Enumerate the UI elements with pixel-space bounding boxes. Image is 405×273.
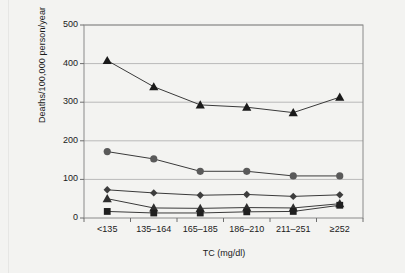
datapoint-4-5	[336, 202, 343, 209]
datapoint-1-2	[197, 168, 204, 175]
datapoint-1-0	[104, 148, 111, 155]
datapoint-1-4	[290, 172, 297, 179]
datapoint-1-3	[243, 168, 250, 175]
datapoint-4-3	[243, 208, 250, 215]
plot-background	[84, 25, 363, 218]
chart-figure: Deaths/100,000 person/year 0100200300400…	[0, 0, 405, 273]
datapoint-4-2	[197, 210, 204, 217]
plot-area	[0, 0, 405, 273]
datapoint-4-0	[104, 208, 111, 215]
datapoint-1-1	[150, 155, 157, 162]
datapoint-4-1	[150, 210, 157, 217]
datapoint-4-4	[290, 208, 297, 215]
datapoint-1-5	[336, 172, 343, 179]
